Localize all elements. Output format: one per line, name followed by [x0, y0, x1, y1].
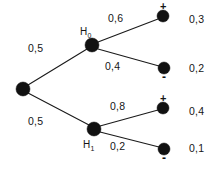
- outcome-value-4: 0,1: [189, 143, 204, 154]
- node-h1: [87, 122, 101, 136]
- branch-label-h1-to-plus: 0,8: [110, 101, 125, 112]
- node-label-h1-subscript: 1: [90, 145, 94, 152]
- leaf-sign-plus-0: +: [160, 2, 167, 11]
- outcome-value-1: 0,3: [189, 14, 204, 25]
- branch-label-h0-to-plus: 0,6: [108, 13, 123, 24]
- node-root: [16, 82, 30, 96]
- leaf-sign-minus-1: -: [162, 155, 166, 162]
- branch-root-to-h0: [28, 49, 87, 85]
- leaf-sign-plus-1: +: [160, 94, 167, 103]
- branch-h1-to-minus: [100, 132, 159, 147]
- branch-label-root-to-h0: 0,5: [28, 43, 43, 54]
- probability-tree-figure: 0,5 0,5 0,6 0,4 0,8 0,2 H0 H1 + - + - 0,…: [0, 0, 218, 169]
- leaf-sign-minus-0: -: [162, 74, 166, 81]
- branch-label-root-to-h1: 0,5: [28, 116, 43, 127]
- branch-label-h1-to-minus: 0,2: [110, 141, 125, 152]
- branch-label-h0-to-minus: 0,4: [105, 61, 120, 72]
- branch-h1-to-plus: [100, 110, 158, 126]
- node-label-h0: H0: [80, 26, 91, 41]
- node-label-h0-subscript: 0: [87, 32, 91, 39]
- node-label-h1: H1: [83, 139, 94, 154]
- tree-diagram-svg: [0, 0, 218, 169]
- outcome-value-2: 0,2: [189, 63, 204, 74]
- outcome-value-3: 0,4: [189, 106, 204, 117]
- branch-h0-to-plus: [98, 19, 158, 42]
